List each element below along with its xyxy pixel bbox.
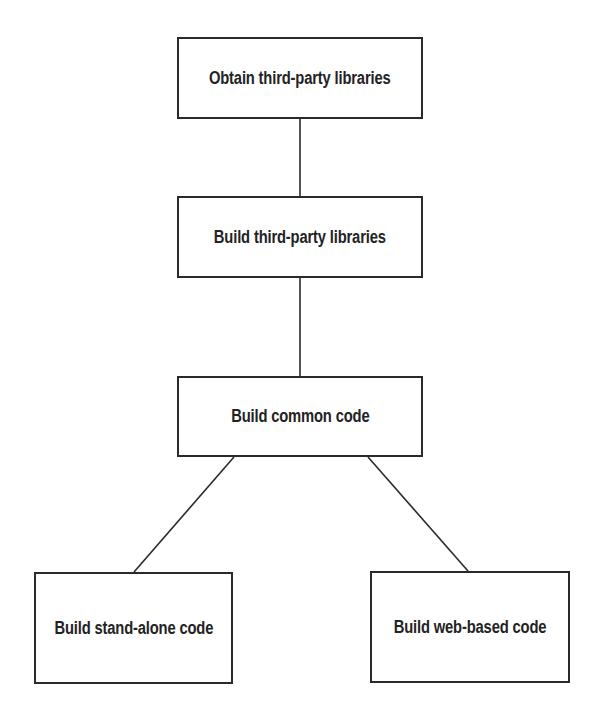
edge-common-to-standalone xyxy=(134,457,234,572)
node-label: Build third-party libraries xyxy=(214,227,386,248)
node-label: Build stand-alone code xyxy=(54,618,213,639)
node-build-stand-alone-code: Build stand-alone code xyxy=(34,572,233,684)
node-label: Build web-based code xyxy=(394,617,547,638)
node-label: Obtain third-party libraries xyxy=(209,68,391,89)
flowchart-canvas: Obtain third-party libraries Build third… xyxy=(0,0,597,711)
node-build-common-code: Build common code xyxy=(177,376,423,457)
edge-common-to-web xyxy=(368,457,468,571)
node-build-web-based-code: Build web-based code xyxy=(370,571,570,683)
node-build-third-party-libraries: Build third-party libraries xyxy=(177,196,423,278)
node-obtain-third-party-libraries: Obtain third-party libraries xyxy=(177,37,423,119)
node-label: Build common code xyxy=(231,406,369,427)
